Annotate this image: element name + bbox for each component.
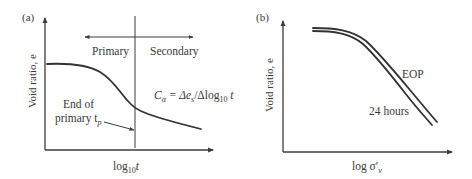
figure: (a) Void ratio, e log10t Primary Seconda…: [0, 0, 472, 179]
formula-c-alpha: Cα = Δes/Δlog10 t: [154, 89, 234, 104]
panel-a: (a) Void ratio, e log10t Primary Seconda…: [22, 11, 234, 175]
end-of-primary-line2: primary tp: [55, 112, 101, 127]
region-primary-label: Primary: [92, 45, 129, 58]
y-axis-label: Void ratio, e: [263, 58, 275, 112]
y-axis-label: Void ratio, e: [26, 54, 38, 108]
panel-a-label: (a): [22, 11, 35, 24]
end-of-primary-line1: End of: [63, 98, 94, 110]
x-axis-label: log10t: [113, 160, 140, 175]
eop-label: EOP: [402, 68, 424, 80]
end-of-primary-arrow: [104, 122, 134, 130]
panel-b-label: (b): [256, 11, 269, 24]
region-secondary-label: Secondary: [150, 45, 199, 58]
panel-b: (b) Void ratio, e log σ′v EOP 24 hours: [256, 11, 452, 175]
24-hours-label: 24 hours: [369, 105, 409, 117]
x-axis-label: log σ′v: [352, 160, 382, 175]
